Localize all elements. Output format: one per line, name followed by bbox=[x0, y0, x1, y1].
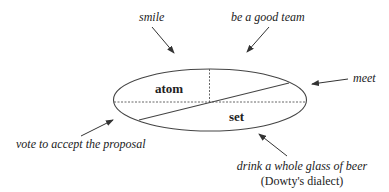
label-drink: drink a whole glass of beer bbox=[237, 159, 367, 173]
label-be-a-good-team: be a good team bbox=[231, 10, 305, 24]
arrow-drink bbox=[259, 134, 287, 156]
label-meet: meet bbox=[353, 71, 376, 85]
arrow-smile bbox=[152, 27, 174, 53]
region-label-atom: atom bbox=[155, 82, 183, 96]
label-smile: smile bbox=[139, 10, 164, 24]
arrow-be-a-good-team bbox=[247, 27, 269, 52]
region-label-set: set bbox=[229, 110, 244, 124]
label-vote: vote to accept the proposal bbox=[16, 137, 146, 151]
label-drink-note: (Dowty's dialect) bbox=[261, 174, 343, 188]
ellipse bbox=[114, 69, 307, 131]
arrow-meet bbox=[312, 79, 348, 84]
arrow-vote bbox=[81, 120, 113, 136]
